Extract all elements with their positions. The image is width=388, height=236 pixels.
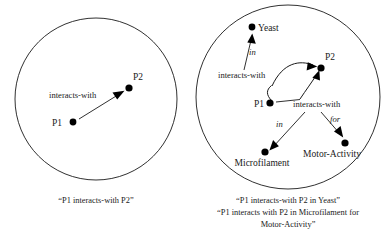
right-panel-caption-line-3: Motor-Activity” [261, 220, 316, 229]
right-panel-caption-line-1: “P1 interacts-with P2 in Yeast” [236, 196, 340, 205]
arrowhead-icon-interacts-upper-to-p2 [307, 62, 318, 70]
figure-canvas: P1 P2 interacts-with “P1 interacts-with … [0, 0, 388, 236]
node-dot-microfilament [261, 148, 268, 155]
arrowhead-icon-interacts-with [113, 91, 125, 100]
node-dot-motor-activity [341, 139, 348, 146]
node-label-yeast: Yeast [258, 23, 279, 33]
node-dot-yeast [249, 24, 256, 31]
node-dot-p2 [317, 64, 324, 71]
edge-label-in-yeast: in [249, 47, 256, 57]
edge-label-in-microfilament: in [276, 119, 283, 129]
left-panel-caption-line-1: “P1 interacts-with P2” [58, 196, 134, 205]
relation-diagram-svg: P1 P2 interacts-with “P1 interacts-with … [0, 0, 388, 236]
node-dot-p1 [266, 99, 273, 106]
node-label-microfilament: Microfilament [235, 158, 290, 168]
edge-curve-interacts-upper-to-p2 [272, 63, 313, 86]
node-label-p1: P1 [254, 99, 264, 109]
node-label-motor-activity: Motor-Activity [303, 149, 361, 159]
edge-label-interacts-with-upper: interacts-with [218, 70, 266, 80]
arrowhead-icon-for-motor-activity [334, 126, 343, 138]
arrowhead-icon-in-yeast [247, 34, 256, 44]
nary-relation-panel: Yeast P2 P1 Microfilament Motor-Activity… [196, 5, 380, 229]
edge-line-in-microfilament [273, 112, 305, 147]
node-label-p1: P1 [52, 118, 62, 128]
edge-label-interacts-with-lower: interacts-with [293, 99, 341, 109]
edge-label-for-motor-activity: for [330, 114, 341, 124]
right-panel-caption-line-2: “P1 interacts with P2 in Microfilament f… [217, 208, 359, 217]
edge-label-interacts-with: interacts-with [49, 90, 97, 100]
node-dot-p2 [125, 84, 132, 91]
node-dot-p1 [70, 119, 77, 126]
binary-relation-panel: P1 P2 interacts-with “P1 interacts-with … [15, 18, 177, 205]
edge-curve-p1-to-interacts-upper [267, 86, 272, 102]
node-label-p2: P2 [133, 72, 143, 82]
node-label-p2: P2 [325, 52, 335, 62]
